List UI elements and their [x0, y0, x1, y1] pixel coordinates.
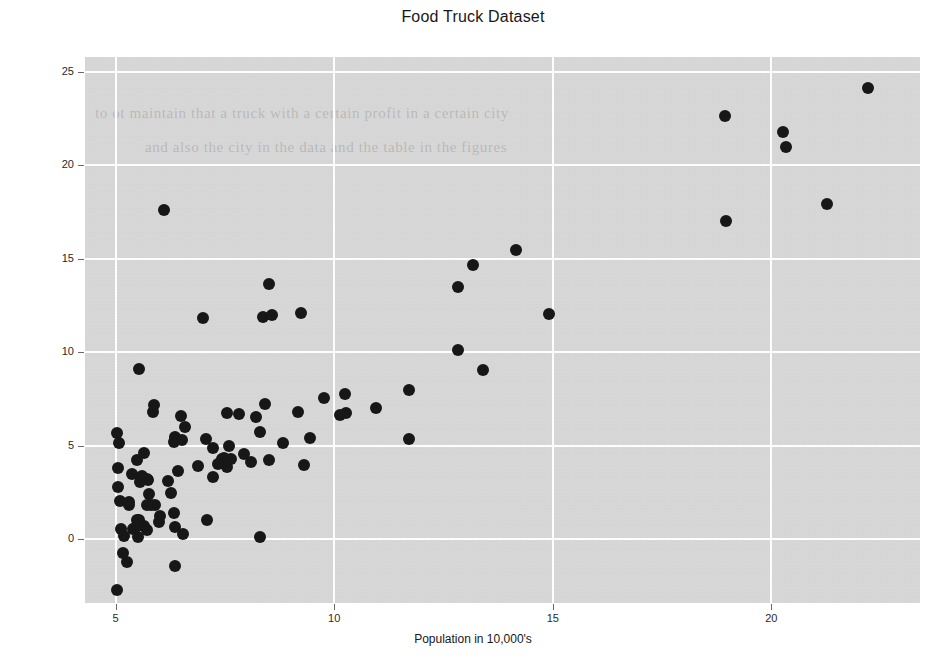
scatter-point	[821, 198, 833, 210]
x-tick-label-5: 5	[96, 612, 136, 624]
gridline-x-15	[552, 57, 554, 603]
scatter-point	[292, 406, 304, 418]
x-tick-label-10: 10	[314, 612, 354, 624]
scatter-point	[720, 215, 732, 227]
scatter-point	[777, 126, 789, 138]
scatter-point	[176, 434, 188, 446]
gridline-x-10	[333, 57, 335, 603]
scatter-point	[318, 392, 330, 404]
scatter-point	[340, 407, 352, 419]
scatter-point	[263, 454, 275, 466]
scatter-point	[467, 259, 479, 271]
scatter-point	[223, 440, 235, 452]
scatter-point	[172, 465, 184, 477]
scatter-point	[158, 204, 170, 216]
gridline-y-10	[85, 351, 920, 353]
scatter-point	[111, 584, 123, 596]
scatter-point	[192, 460, 204, 472]
gridline-x-20	[770, 57, 772, 603]
scatter-point	[162, 475, 174, 487]
scatter-point	[143, 488, 155, 500]
gridline-x-5	[115, 57, 117, 603]
chart-figure: Food Truck Dataset to ot maintain that a…	[0, 0, 946, 668]
y-tick-label-20: 20	[48, 158, 74, 170]
scatter-point	[254, 426, 266, 438]
scatter-point	[169, 560, 181, 572]
scatter-point	[780, 141, 792, 153]
scatter-point	[165, 487, 177, 499]
scatter-point	[266, 309, 278, 321]
scatter-point	[179, 421, 191, 433]
y-tick-label-15: 15	[48, 252, 74, 264]
scatter-point	[111, 427, 123, 439]
y-tick-mark-25	[78, 72, 84, 73]
scatter-point	[452, 281, 464, 293]
y-tick-label-0: 0	[48, 532, 74, 544]
y-tick-mark-15	[78, 259, 84, 260]
scatter-point	[207, 471, 219, 483]
scatter-point	[225, 453, 237, 465]
scatter-point	[233, 408, 245, 420]
scatter-point	[148, 399, 160, 411]
scatter-point	[133, 363, 145, 375]
scatter-point	[138, 447, 150, 459]
y-tick-mark-0	[78, 539, 84, 540]
scatter-point	[543, 308, 555, 320]
scatter-point	[339, 388, 351, 400]
scatter-point	[370, 402, 382, 414]
scatter-point	[245, 456, 257, 468]
y-tick-mark-5	[78, 446, 84, 447]
scatter-point	[403, 384, 415, 396]
y-tick-mark-10	[78, 352, 84, 353]
scatter-point	[153, 516, 165, 528]
chart-title: Food Truck Dataset	[0, 8, 946, 26]
scatter-point	[304, 432, 316, 444]
scatter-point	[862, 82, 874, 94]
scatter-point	[169, 521, 181, 533]
scatter-point	[403, 433, 415, 445]
scatter-point	[141, 499, 153, 511]
x-tick-label-20: 20	[751, 612, 791, 624]
x-tick-label-15: 15	[533, 612, 573, 624]
scatter-point	[477, 364, 489, 376]
x-tick-mark-15	[553, 604, 554, 610]
scatter-point	[452, 344, 464, 356]
x-axis-label: Population in 10,000's	[0, 632, 946, 646]
scatter-point	[719, 110, 731, 122]
scatter-point	[221, 407, 233, 419]
gridline-y-0	[85, 538, 920, 540]
scatter-point	[112, 462, 124, 474]
y-tick-label-25: 25	[48, 65, 74, 77]
scatter-point	[277, 437, 289, 449]
plot-area: to ot maintain that a truck with a certa…	[85, 57, 920, 603]
scatter-point	[298, 459, 310, 471]
y-tick-label-10: 10	[48, 345, 74, 357]
scatter-point	[254, 531, 266, 543]
gridline-y-20	[85, 164, 920, 166]
scatter-point	[263, 278, 275, 290]
scatter-point	[259, 398, 271, 410]
scatter-point	[136, 470, 148, 482]
x-tick-mark-20	[771, 604, 772, 610]
scatter-point	[129, 522, 141, 534]
x-tick-mark-5	[116, 604, 117, 610]
x-tick-mark-10	[334, 604, 335, 610]
gridline-y-15	[85, 258, 920, 260]
scatter-point	[201, 514, 213, 526]
scatter-point	[175, 410, 187, 422]
scatter-point	[197, 312, 209, 324]
scatter-point	[207, 442, 219, 454]
scatter-point	[295, 307, 307, 319]
scatter-point	[510, 244, 522, 256]
scatter-point	[112, 481, 124, 493]
scatter-point	[113, 437, 125, 449]
bleed-through-text-line-2: and also the city in the data and the ta…	[145, 139, 920, 156]
scatter-point	[250, 411, 262, 423]
scatter-point	[118, 530, 130, 542]
y-tick-mark-20	[78, 165, 84, 166]
gridline-y-25	[85, 71, 920, 73]
bleed-through-text-line-1: to ot maintain that a truck with a certa…	[95, 105, 920, 122]
y-tick-label-5: 5	[48, 439, 74, 451]
scatter-point	[168, 507, 180, 519]
